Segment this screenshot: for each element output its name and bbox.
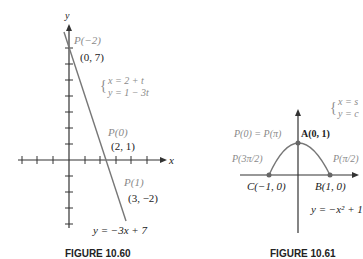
- equation-line: y = −3x + 7: [93, 224, 147, 236]
- x-axis-label: x: [169, 154, 174, 166]
- caption-figure-10-60: FIGURE 10.60: [65, 248, 131, 259]
- x-arrow-icon: [160, 157, 167, 163]
- label-point-3-neg2: (3, −2): [128, 192, 158, 204]
- label-p-pi2: P(π/2): [333, 153, 359, 165]
- label-point-2-1: (2, 1): [111, 140, 135, 152]
- y-arrow-icon: [295, 109, 301, 116]
- label-p-neg2: P(−2): [74, 34, 101, 46]
- param-y: y = c: [338, 108, 359, 120]
- point-B: [328, 173, 333, 178]
- point-A: [296, 141, 301, 146]
- label-C: C(−1, 0): [247, 180, 286, 192]
- point-C: [267, 173, 272, 178]
- brace-icon: {: [330, 96, 337, 120]
- param-x: x = 2 + t: [108, 75, 144, 87]
- label-B: B(1, 0): [315, 180, 346, 192]
- y-axis-label: y: [65, 10, 69, 22]
- param-x: x = s: [338, 96, 358, 108]
- label-point-0-7: (0, 7): [80, 51, 104, 63]
- label-p-3pi2: P(3π/2): [232, 153, 263, 165]
- param-y: y = 1 − 3t: [108, 87, 149, 99]
- label-p0: P(0): [108, 126, 128, 138]
- label-p0-ppi: P(0) = P(π): [234, 128, 281, 140]
- label-A: A(0, 1): [301, 128, 330, 140]
- y-arrow-icon: [66, 24, 72, 31]
- label-p1: P(1): [124, 176, 144, 188]
- brace-icon: {: [100, 74, 107, 98]
- caption-figure-10-61: FIGURE 10.61: [270, 248, 336, 259]
- parabola-curve: [269, 143, 330, 175]
- x-arrow-icon: [352, 172, 359, 178]
- equation-parabola: y = −x² + 1: [311, 203, 363, 215]
